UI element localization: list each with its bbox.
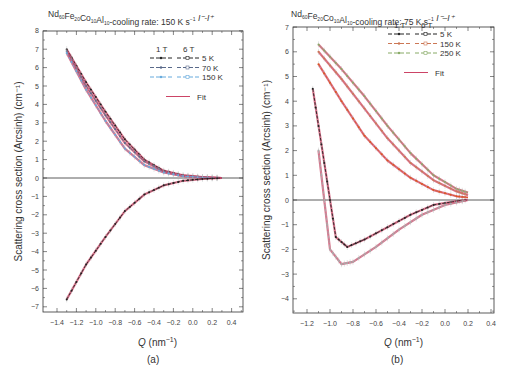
data-point — [109, 229, 111, 231]
x-tick-label: 0.0 — [440, 320, 450, 327]
data-point — [158, 187, 160, 189]
data-point — [387, 226, 389, 228]
data-point — [192, 179, 194, 181]
data-point — [85, 263, 87, 265]
data-point — [349, 261, 351, 263]
data-point — [375, 110, 377, 112]
data-point — [90, 257, 92, 259]
data-point — [329, 82, 331, 84]
data-point — [381, 229, 383, 231]
data-point — [100, 243, 102, 245]
data-point — [335, 236, 337, 238]
data-point — [398, 168, 400, 170]
data-point — [450, 203, 452, 205]
data-point — [202, 178, 204, 180]
data-point — [341, 78, 343, 80]
y-axis-title: Scattering cross section (Arcsinh) (cm⁻¹… — [13, 81, 24, 261]
data-point — [415, 166, 417, 168]
data-point — [421, 209, 423, 211]
data-point — [415, 211, 417, 213]
x-tick-label: −0.6 — [128, 319, 142, 326]
y-tick-label: 7 — [285, 24, 289, 31]
data-point — [80, 79, 82, 81]
data-point — [134, 156, 136, 158]
x-tick-label: −1.4 — [50, 319, 64, 326]
data-point — [153, 168, 155, 170]
data-point — [352, 82, 354, 84]
data-point — [90, 97, 92, 99]
data-point — [427, 169, 429, 171]
data-point — [351, 244, 353, 246]
data-point — [421, 183, 423, 185]
data-point — [343, 263, 345, 265]
data-point — [444, 185, 446, 187]
data-point — [114, 134, 116, 136]
data-point — [343, 243, 345, 245]
y-tick-label: 3 — [285, 122, 289, 129]
data-point — [387, 237, 389, 239]
svg-text:1 T: 1 T — [156, 45, 168, 54]
data-point — [318, 125, 320, 127]
x-tick-label: 0.0 — [188, 319, 198, 326]
data-point — [329, 64, 331, 66]
legend: 1 T6 T5 K150 K250 KFit — [388, 21, 462, 78]
data-point — [392, 164, 394, 166]
data-point — [119, 217, 121, 219]
data-point — [415, 180, 417, 182]
data-point — [346, 109, 348, 111]
panel-a-chart: Nd60Fe20Co10Al10-cooling rate: 150 K s−1… — [13, 9, 243, 365]
fit-curve — [319, 52, 469, 195]
data-point — [427, 211, 429, 213]
data-point — [387, 159, 389, 161]
data-point — [410, 162, 412, 164]
data-point — [398, 229, 400, 231]
data-point — [364, 108, 366, 110]
data-point — [206, 178, 208, 180]
y-tick-label: 4 — [35, 101, 39, 108]
legend-entry: 5 K — [202, 54, 215, 63]
x-tick-label: −0.4 — [147, 319, 161, 326]
x-tick-label: −1.0 — [89, 319, 103, 326]
panel-label: (a) — [147, 354, 159, 365]
data-point — [134, 202, 136, 204]
data-point — [158, 170, 160, 172]
y-axis-title: Scattering cross section (Arcsinh) (cm⁻¹… — [261, 80, 272, 260]
data-point — [461, 200, 463, 202]
data-point — [318, 51, 320, 53]
data-point — [318, 150, 320, 152]
chart-title: Nd60Fe20Co10Al10-cooling rate: 150 K s−1… — [48, 9, 215, 27]
data-point — [410, 177, 412, 179]
data-point — [415, 158, 417, 160]
legend-fit: Fit — [435, 69, 445, 78]
data-point — [66, 298, 68, 300]
data-point — [392, 233, 394, 235]
data-point — [134, 151, 136, 153]
data-point — [148, 191, 150, 193]
data-point — [404, 172, 406, 174]
data-point — [124, 210, 126, 212]
data-point — [66, 52, 68, 54]
data-point — [95, 100, 97, 102]
x-tick-label: 0.2 — [463, 320, 473, 327]
data-point — [404, 145, 406, 147]
data-point — [404, 156, 406, 158]
data-point — [358, 88, 360, 90]
data-point — [404, 225, 406, 227]
data-point — [85, 89, 87, 91]
data-point — [398, 220, 400, 222]
y-tick-label: 6 — [285, 48, 289, 55]
data-point — [335, 256, 337, 258]
y-tick-label: −3 — [281, 271, 289, 278]
data-point — [352, 117, 354, 119]
data-point — [387, 125, 389, 127]
x-tick-label: −1.2 — [300, 320, 314, 327]
data-point — [410, 214, 412, 216]
x-tick-label: −0.4 — [392, 320, 406, 327]
data-point — [369, 141, 371, 143]
data-point — [381, 130, 383, 132]
data-point — [369, 115, 371, 117]
y-tick-label: 2 — [285, 147, 289, 154]
data-point — [326, 224, 328, 226]
data-point — [187, 175, 189, 177]
data-point — [438, 191, 440, 193]
